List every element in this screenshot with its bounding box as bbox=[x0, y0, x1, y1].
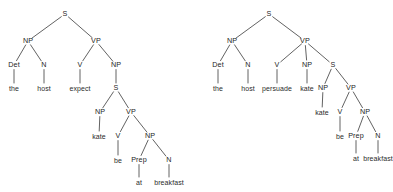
tree-node-v: V bbox=[275, 61, 280, 68]
tree-node-vp: VP bbox=[300, 37, 310, 44]
tree-leaf-at: at bbox=[353, 155, 359, 162]
tree-leaf-be: be bbox=[336, 133, 344, 140]
tree-node-v: V bbox=[78, 61, 83, 68]
tree-node-np: NP bbox=[95, 108, 105, 115]
tree-node-n: N bbox=[375, 132, 380, 139]
tree-leaf-breakfast: breakfast bbox=[154, 179, 184, 186]
tree-node-np: NP bbox=[23, 37, 33, 44]
tree-edge-layer bbox=[0, 0, 393, 192]
tree-node-prep: Prep bbox=[131, 156, 147, 163]
tree-node-np: NP bbox=[360, 108, 370, 115]
tree-node-s: S bbox=[331, 61, 336, 68]
tree-leaf-persuade: persuade bbox=[262, 85, 292, 92]
tree-edge bbox=[32, 16, 62, 38]
tree-edge bbox=[353, 92, 363, 108]
tree-node-vp: VP bbox=[91, 37, 101, 44]
tree-node-n: N bbox=[166, 156, 171, 163]
tree-node-np: NP bbox=[111, 61, 121, 68]
tree-node-n: N bbox=[245, 61, 250, 68]
tree-node-np: NP bbox=[145, 132, 155, 139]
tree-leaf-at: at bbox=[136, 179, 142, 186]
tree-edge bbox=[367, 116, 376, 132]
tree-node-s: S bbox=[114, 84, 119, 91]
tree-node-s: S bbox=[63, 10, 68, 17]
tree-leaf-breakfast: breakfast bbox=[363, 155, 393, 162]
tree-edge bbox=[234, 44, 245, 61]
tree-leaf-host: host bbox=[37, 85, 51, 92]
tree-node-v: V bbox=[338, 108, 343, 115]
tree-edge bbox=[325, 69, 332, 84]
tree-edge bbox=[99, 116, 100, 131]
tree-edge bbox=[68, 17, 92, 38]
tree-edge bbox=[141, 140, 148, 156]
tree-node-np: NP bbox=[302, 61, 312, 68]
syntax-tree-figure: SNPVPDetNVNPthehostexpectSNPVPkateVNPbeP… bbox=[0, 0, 393, 192]
tree-node-vp: VP bbox=[346, 84, 356, 91]
tree-edge bbox=[305, 45, 306, 60]
tree-leaf-expect: expect bbox=[69, 85, 90, 92]
tree-node-np: NP bbox=[227, 37, 237, 44]
tree-edge bbox=[153, 139, 167, 156]
tree-leaf-host: host bbox=[241, 85, 255, 92]
tree-edge bbox=[308, 44, 329, 62]
tree-leaf-kate: kate bbox=[315, 109, 329, 116]
tree-leaf-kate: kate bbox=[300, 85, 314, 92]
tree-node-n: N bbox=[41, 61, 46, 68]
tree-edge bbox=[272, 17, 301, 39]
tree-edge bbox=[358, 116, 364, 132]
tree-edge bbox=[118, 92, 128, 109]
tree-edge bbox=[99, 44, 113, 61]
tree-edge bbox=[280, 44, 301, 62]
tree-node-det: Det bbox=[8, 61, 20, 68]
tree-node-s: S bbox=[267, 10, 272, 17]
tree-edge bbox=[236, 16, 266, 38]
tree-edge bbox=[120, 116, 129, 132]
tree-edge bbox=[322, 92, 323, 107]
tree-node-v: V bbox=[116, 132, 121, 139]
tree-leaf-kate: kate bbox=[92, 133, 106, 140]
tree-node-det: Det bbox=[212, 61, 224, 68]
tree-node-np: NP bbox=[318, 84, 328, 91]
tree-node-prep: Prep bbox=[348, 132, 364, 139]
tree-edge bbox=[220, 45, 230, 61]
tree-edge bbox=[30, 44, 41, 61]
tree-edge bbox=[336, 68, 349, 84]
tree-edge bbox=[342, 92, 349, 108]
tree-node-vp: VP bbox=[126, 108, 136, 115]
tree-edge bbox=[16, 45, 26, 61]
tree-leaf-the: the bbox=[213, 85, 223, 92]
tree-edge bbox=[103, 91, 114, 108]
tree-edge bbox=[134, 115, 148, 132]
tree-leaf-be: be bbox=[114, 157, 122, 164]
tree-leaf-the: the bbox=[9, 85, 19, 92]
tree-edge bbox=[83, 44, 94, 61]
